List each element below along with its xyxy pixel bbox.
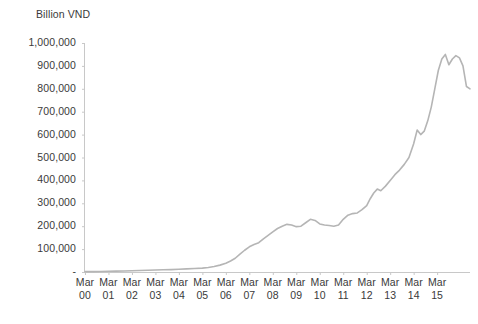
chart-container: Billion VND 1,000,000900,000800,000700,0… [0, 0, 478, 324]
axis-lines [85, 43, 471, 273]
x-tick-year: 15 [420, 289, 454, 302]
x-tick-label: Mar15 [420, 276, 454, 301]
x-axis-tick-labels: Mar00Mar01Mar02Mar03Mar04Mar05Mar06Mar07… [0, 276, 478, 320]
x-tick-month: Mar [420, 276, 454, 289]
data-series-line [85, 54, 470, 271]
